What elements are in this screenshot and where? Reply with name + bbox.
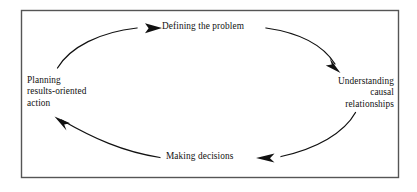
node-line: causal [338, 87, 394, 98]
node-line: Understanding [338, 76, 394, 87]
node-line: Planning [27, 75, 86, 86]
node-line: Making decisions [166, 151, 233, 162]
node-label-making-decisions: Making decisions [166, 151, 233, 162]
node-line: Defining the problem [162, 21, 244, 32]
node-line: relationships [338, 99, 394, 110]
node-line: results-oriented [27, 86, 86, 97]
node-label-planning-results-oriented-action: Planning results-oriented action [27, 75, 86, 109]
cycle-diagram: Defining the problem Understanding causa… [0, 0, 417, 192]
node-label-understanding-causal-relationships: Understanding causal relationships [338, 76, 394, 110]
node-line: action [27, 98, 86, 109]
node-label-defining-the-problem: Defining the problem [162, 21, 244, 32]
